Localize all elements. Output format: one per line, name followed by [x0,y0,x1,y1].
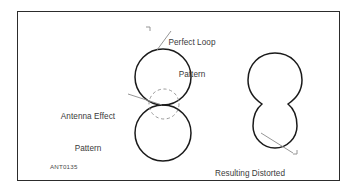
label-resulting-distorted: Resulting Distorted Pattern [204,148,296,195]
figure-canvas: Perfect Loop Pattern Antenna Effect Patt… [0,0,360,195]
distorted-pattern-outline [248,53,302,148]
label-perfect-loop-line2: Pattern [153,70,231,81]
leader-tick-perfect-loop [146,27,150,31]
figure-id-label: ANT0135 [50,162,78,173]
label-perfect-loop: Perfect Loop Pattern [153,17,231,101]
label-antenna-effect-line2: Pattern [48,144,128,155]
label-perfect-loop-line1: Perfect Loop [153,38,231,49]
resulting-distorted-pattern-group [248,53,302,148]
lower-lobe-circle [135,105,191,161]
label-resulting-distorted-line1: Resulting Distorted [204,169,296,180]
label-antenna-effect-line1: Antenna Effect [48,112,128,123]
